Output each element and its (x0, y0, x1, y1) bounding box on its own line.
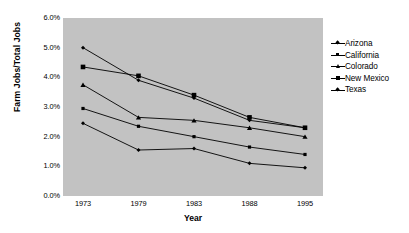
plot-area (63, 18, 323, 196)
data-point (192, 93, 197, 98)
data-point (192, 135, 195, 138)
y-axis-tick: 4.0% (24, 74, 60, 81)
series-texas (81, 121, 307, 170)
series-colorado (80, 83, 307, 139)
data-point (137, 148, 141, 152)
data-point (247, 115, 252, 120)
legend-marker-icon (331, 84, 345, 96)
legend-marker-icon (331, 73, 345, 85)
x-axis-tick: 1988 (228, 199, 272, 208)
legend-item-texas[interactable]: Texas (331, 84, 407, 96)
x-axis-tick: 1983 (172, 199, 216, 208)
data-point (303, 153, 306, 156)
y-axis-tick-labels: 0.0%1.0%2.0%3.0%4.0%5.0%6.0% (24, 18, 60, 196)
y-axis-tick: 0.0% (24, 192, 60, 199)
legend-item-arizona[interactable]: Arizona (331, 38, 407, 50)
legend-item-new-mexico[interactable]: New Mexico (331, 73, 407, 85)
plot-series-svg (63, 18, 323, 196)
data-point (136, 74, 141, 79)
legend-item-colorado[interactable]: Colorado (331, 61, 407, 73)
data-point (248, 145, 251, 148)
data-point (192, 147, 196, 151)
data-point (81, 107, 84, 110)
x-axis-tick: 1979 (117, 199, 161, 208)
data-point (137, 125, 140, 128)
chart-legend: ArizonaCaliforniaColoradoNew MexicoTexas (331, 38, 407, 96)
data-point (81, 121, 85, 125)
data-point (303, 166, 307, 170)
x-axis-tick: 1995 (283, 199, 327, 208)
legend-label: Texas (345, 84, 366, 96)
farm-jobs-line-chart: Farm Jobs/Total Jobs 0.0%1.0%2.0%3.0%4.0… (0, 0, 409, 233)
legend-marker-icon (331, 61, 345, 73)
data-point (81, 46, 85, 50)
y-axis-tick: 6.0% (24, 14, 60, 21)
y-axis-tick: 1.0% (24, 163, 60, 170)
y-axis-tick: 2.0% (24, 133, 60, 140)
legend-item-california[interactable]: California (331, 50, 407, 62)
data-point (137, 78, 141, 82)
y-axis-title: Farm Jobs/Total Jobs (12, 0, 22, 142)
legend-marker-icon (331, 38, 345, 50)
y-axis-tick: 5.0% (24, 44, 60, 51)
x-axis-title: Year (63, 213, 323, 223)
legend-label: Colorado (345, 61, 378, 73)
legend-label: Arizona (345, 38, 372, 50)
y-axis-tick: 3.0% (24, 103, 60, 110)
legend-label: California (345, 50, 379, 62)
legend-marker-icon (331, 50, 345, 62)
data-point (248, 161, 252, 165)
series-arizona (81, 46, 307, 130)
data-point (80, 83, 85, 87)
data-point (303, 125, 308, 130)
legend-label: New Mexico (345, 73, 389, 85)
x-axis-tick: 1973 (61, 199, 105, 208)
x-axis-tick-labels: 19731979198319881995 (63, 199, 323, 211)
data-point (81, 65, 86, 70)
